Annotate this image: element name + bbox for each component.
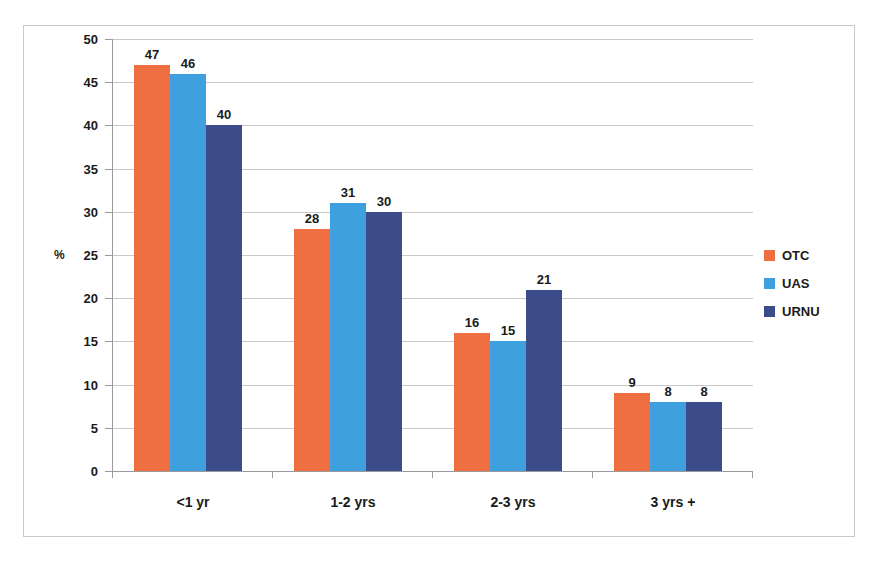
bar-value-label: 30	[377, 194, 391, 209]
chart-figure-frame: % 474640283130161521988 OTCUASURNU 50454…	[23, 25, 855, 537]
bar-otc-3: 9	[614, 393, 650, 471]
y-axis-tick-label: 10	[24, 377, 98, 392]
x-axis-group-label: 3 yrs +	[651, 494, 696, 510]
grouped-bar-chart: % 474640283130161521988 OTCUASURNU 50454…	[24, 26, 854, 536]
gridline	[113, 471, 753, 472]
legend-label: OTC	[782, 248, 809, 263]
x-axis-group-label: 1-2 yrs	[330, 494, 375, 510]
x-axis-tick	[272, 471, 273, 478]
bar-value-label: 16	[465, 315, 479, 330]
y-axis-tick	[105, 169, 113, 170]
x-axis-tick	[432, 471, 433, 478]
y-axis-tick	[105, 385, 113, 386]
y-axis-tick-label: 0	[24, 464, 98, 479]
bar-urnu-0: 40	[206, 125, 242, 471]
y-axis-tick-label: 25	[24, 248, 98, 263]
legend-swatch-icon	[764, 278, 775, 289]
y-axis-tick-label: 5	[24, 420, 98, 435]
x-axis-tick	[112, 471, 113, 478]
bar-urnu-1: 30	[366, 212, 402, 471]
legend-swatch-icon	[764, 306, 775, 317]
legend-item-uas: UAS	[764, 269, 820, 297]
y-axis-tick-label: 20	[24, 291, 98, 306]
y-axis-tick	[105, 298, 113, 299]
bar-value-label: 8	[700, 384, 707, 399]
y-axis-tick-label: 40	[24, 118, 98, 133]
y-axis-tick-label: 50	[24, 32, 98, 47]
bar-value-label: 9	[628, 375, 635, 390]
y-axis-tick	[105, 125, 113, 126]
bar-value-label: 31	[341, 185, 355, 200]
bar-value-label: 47	[145, 47, 159, 62]
bar-urnu-3: 8	[686, 402, 722, 471]
y-axis-tick-label: 35	[24, 161, 98, 176]
legend-swatch-icon	[764, 250, 775, 261]
legend-item-otc: OTC	[764, 241, 820, 269]
y-axis-tick	[105, 39, 113, 40]
y-axis-tick	[105, 82, 113, 83]
bar-value-label: 28	[305, 211, 319, 226]
bar-urnu-2: 21	[526, 290, 562, 471]
bar-otc-1: 28	[294, 229, 330, 471]
gridline	[113, 39, 753, 40]
x-axis-tick	[592, 471, 593, 478]
y-axis-tick	[105, 428, 113, 429]
x-axis-group-label: 2-3 yrs	[490, 494, 535, 510]
bar-value-label: 40	[217, 107, 231, 122]
y-axis-tick-label: 30	[24, 204, 98, 219]
x-axis-group-label: <1 yr	[176, 494, 209, 510]
y-axis-tick	[105, 212, 113, 213]
bar-otc-0: 47	[134, 65, 170, 471]
bar-uas-1: 31	[330, 203, 366, 471]
legend-label: UAS	[782, 276, 809, 291]
bar-value-label: 15	[501, 323, 515, 338]
bar-uas-3: 8	[650, 402, 686, 471]
plot-area: 474640283130161521988	[113, 39, 753, 471]
bar-value-label: 8	[664, 384, 671, 399]
gridline	[113, 82, 753, 83]
y-axis-tick	[105, 341, 113, 342]
bar-otc-2: 16	[454, 333, 490, 471]
chart-legend: OTCUASURNU	[764, 241, 820, 325]
y-axis-tick-label: 15	[24, 334, 98, 349]
bar-uas-0: 46	[170, 74, 206, 471]
bar-value-label: 21	[537, 272, 551, 287]
x-axis-tick	[752, 471, 753, 478]
bar-uas-2: 15	[490, 341, 526, 471]
legend-label: URNU	[782, 304, 820, 319]
y-axis-tick-label: 45	[24, 75, 98, 90]
bar-value-label: 46	[181, 56, 195, 71]
legend-item-urnu: URNU	[764, 297, 820, 325]
y-axis-tick	[105, 255, 113, 256]
